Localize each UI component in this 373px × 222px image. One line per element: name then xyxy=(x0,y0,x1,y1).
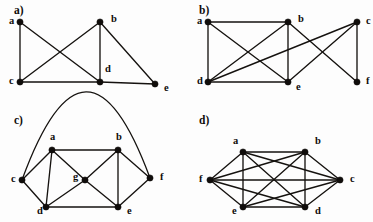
figure-board: abcdea)abcdefb)abcgfdec)abcdefd) xyxy=(0,0,373,222)
edge-arc-c-c-f xyxy=(22,92,150,180)
graph-panel-c: abcgfdec) xyxy=(11,92,164,217)
edge-c-e-g xyxy=(85,180,118,207)
edge-c-d-g xyxy=(46,180,85,207)
panel-label-b: b) xyxy=(199,4,209,17)
vertex-label-d-e: e xyxy=(232,205,237,216)
vertex-label-c-a: a xyxy=(50,131,56,142)
vertex-label-d-c: c xyxy=(350,173,355,184)
edge-c-b-g xyxy=(85,150,118,180)
graph-panel-b: abcdefb) xyxy=(197,4,371,93)
edge-a-b-e xyxy=(100,22,155,84)
vertex-c-g[interactable] xyxy=(82,177,88,183)
vertex-c-e[interactable] xyxy=(115,204,121,210)
vertex-b-b[interactable] xyxy=(285,19,291,25)
vertex-label-a-d: d xyxy=(105,63,111,74)
edge-c-c-d xyxy=(22,180,46,207)
panel-label-c: c) xyxy=(14,114,23,127)
vertex-label-a-b: b xyxy=(111,13,117,24)
vertex-b-e[interactable] xyxy=(285,79,291,85)
vertex-label-b-c: c xyxy=(366,15,371,26)
edge-d-b-c xyxy=(305,152,340,180)
graph-canvas: abcdea)abcdefb)abcgfdec)abcdefd) xyxy=(0,0,373,222)
vertex-c-c[interactable] xyxy=(19,177,25,183)
vertex-d-d[interactable] xyxy=(302,204,308,210)
edge-c-a-g xyxy=(52,150,85,180)
vertex-label-d-d: d xyxy=(315,205,321,216)
edge-c-e-f xyxy=(118,178,150,207)
vertex-label-b-a: a xyxy=(197,15,203,26)
panel-label-a: a) xyxy=(14,4,24,17)
vertex-label-c-f: f xyxy=(160,171,164,182)
vertex-label-b-f: f xyxy=(366,75,370,86)
edge-a-d-e xyxy=(100,82,155,84)
vertex-a-e[interactable] xyxy=(152,81,158,87)
edge-d-c-d xyxy=(305,180,340,207)
vertex-label-d-a: a xyxy=(233,135,239,146)
edge-b-d-c xyxy=(208,22,357,82)
vertex-d-f[interactable] xyxy=(207,177,213,183)
vertex-label-a-a: a xyxy=(9,15,15,26)
vertex-a-a[interactable] xyxy=(17,19,23,25)
vertex-label-d-f: f xyxy=(199,173,203,184)
vertex-d-e[interactable] xyxy=(240,204,246,210)
vertex-d-c[interactable] xyxy=(337,177,343,183)
graph-panel-d: abcdefd) xyxy=(199,114,355,217)
vertex-label-b-e: e xyxy=(296,81,301,92)
vertex-label-d-b: b xyxy=(315,135,321,146)
vertex-c-d[interactable] xyxy=(43,204,49,210)
vertex-label-a-c: c xyxy=(9,75,14,86)
vertex-c-b[interactable] xyxy=(115,147,121,153)
vertex-label-c-d: d xyxy=(37,205,43,216)
vertex-label-c-c: c xyxy=(11,173,16,184)
vertex-label-b-b: b xyxy=(298,13,304,24)
vertex-c-a[interactable] xyxy=(49,147,55,153)
vertex-b-c[interactable] xyxy=(354,19,360,25)
graph-panel-a: abcdea) xyxy=(9,4,169,94)
vertex-b-f[interactable] xyxy=(354,79,360,85)
vertex-a-c[interactable] xyxy=(17,79,23,85)
vertex-label-c-b: b xyxy=(116,131,122,142)
edge-c-a-d xyxy=(46,150,52,207)
vertex-label-c-g: g xyxy=(73,171,79,182)
edge-c-a-c xyxy=(22,150,52,180)
panel-label-d: d) xyxy=(199,114,209,127)
vertex-b-a[interactable] xyxy=(205,19,211,25)
vertex-label-c-e: e xyxy=(127,205,132,216)
vertex-label-a-e: e xyxy=(164,82,169,93)
vertex-a-b[interactable] xyxy=(97,19,103,25)
vertex-d-b[interactable] xyxy=(302,149,308,155)
vertex-b-d[interactable] xyxy=(205,79,211,85)
vertex-d-a[interactable] xyxy=(240,149,246,155)
vertex-a-d[interactable] xyxy=(97,79,103,85)
vertex-label-b-d: d xyxy=(197,75,203,86)
vertex-c-f[interactable] xyxy=(147,175,153,181)
